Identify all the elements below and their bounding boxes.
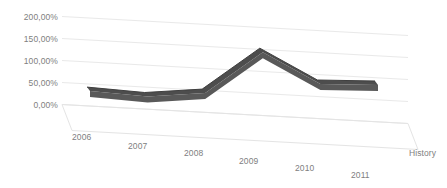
floor-left-edge (62, 105, 72, 131)
x-tick-label-2011: 2011 (351, 170, 370, 180)
x-tick-label-2009: 2009 (239, 156, 258, 166)
y-tick-label-100: 100,00% (2, 56, 58, 66)
gridline-150 (62, 39, 408, 58)
x-tick-label-2007: 2007 (128, 141, 147, 151)
x-tick-label-2008: 2008 (184, 148, 203, 158)
y-tick-label-0: 0,00% (2, 100, 58, 110)
floor-right-edge (408, 124, 418, 150)
chart-container: 200,00% 150,00% 100,00% 50,00% 0,00% 200… (0, 0, 447, 188)
y-tick-label-50: 50,00% (2, 78, 58, 88)
floor-back-edge (62, 105, 408, 124)
chart-plot-area (0, 0, 447, 188)
x-tick-label-2010: 2010 (295, 163, 314, 173)
floor-front-edge (72, 131, 418, 150)
x-tick-label-2006: 2006 (72, 132, 91, 142)
legend-entry-history: History (409, 148, 436, 158)
gridline-200 (62, 17, 408, 36)
y-tick-label-200: 200,00% (2, 12, 58, 22)
y-tick-label-150: 150,00% (2, 34, 58, 44)
floor-plane (62, 105, 418, 150)
